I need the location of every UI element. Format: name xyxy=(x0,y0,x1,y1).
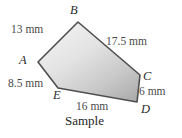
vertex-label-a: A xyxy=(19,54,27,67)
side-length-ea: 8.5 mm xyxy=(8,78,43,90)
vertex-label-b: B xyxy=(70,4,78,17)
sample-polygon-figure: A B C D E 13 mm 17.5 mm 6 mm 16 mm 8.5 m… xyxy=(0,0,182,138)
vertex-label-c: C xyxy=(143,70,151,83)
vertex-label-d: D xyxy=(141,103,150,116)
vertex-label-e: E xyxy=(53,89,61,102)
side-length-bc: 17.5 mm xyxy=(106,36,147,48)
figure-caption: Sample xyxy=(65,114,104,127)
side-length-cd: 6 mm xyxy=(139,86,166,98)
side-length-de: 16 mm xyxy=(76,101,108,113)
side-length-ab: 13 mm xyxy=(11,24,43,36)
